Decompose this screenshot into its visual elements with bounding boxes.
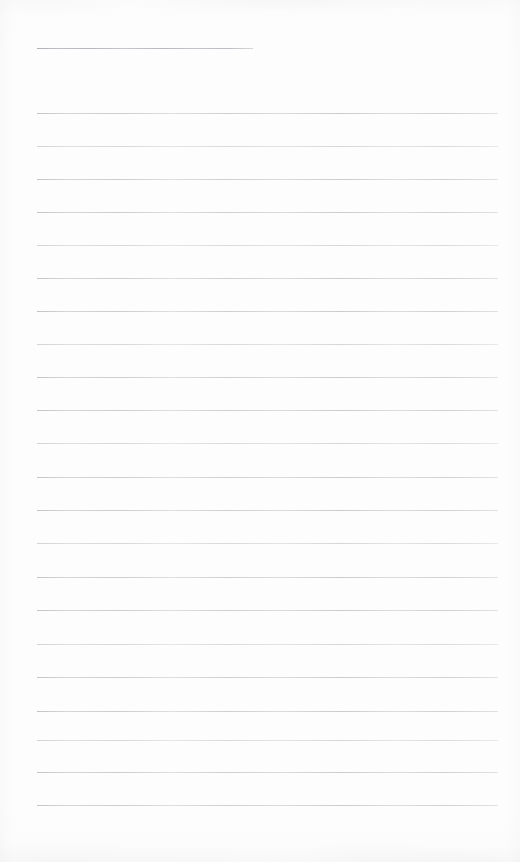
ruled-line [37,510,498,511]
ruled-line [37,543,498,544]
ruled-line [37,278,498,279]
ruled-line [37,377,498,378]
ruled-line [37,410,498,411]
title-rule [37,48,253,49]
ruled-line [37,711,498,712]
ruled-line [37,610,498,611]
ruled-line [37,644,498,645]
ruled-line [37,740,498,741]
ruled-line [37,677,498,678]
ruled-line [37,772,498,773]
ruled-line [37,113,498,114]
ruled-line [37,212,498,213]
ruled-line [37,179,498,180]
ruled-line [37,443,498,444]
ruled-line [37,245,498,246]
ruled-line [37,146,498,147]
ruled-line [37,477,498,478]
ruled-line [37,805,498,806]
ruled-line [37,344,498,345]
ruled-line [37,311,498,312]
ruled-line [37,577,498,578]
scanned-paper-page [0,0,520,862]
